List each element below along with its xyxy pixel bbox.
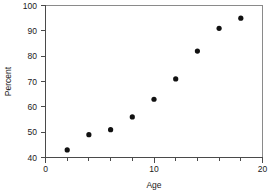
- data-point: [195, 49, 200, 54]
- data-point: [86, 132, 91, 137]
- y-tick-label-40: 40: [28, 153, 38, 163]
- y-tick-label-50: 50: [28, 127, 38, 137]
- x-tick-label-20: 20: [258, 164, 268, 174]
- y-tick-label-90: 90: [28, 26, 38, 36]
- chart-background: [0, 0, 271, 193]
- data-point: [130, 114, 135, 119]
- y-tick-label-80: 80: [28, 51, 38, 61]
- y-axis-title: Percent: [3, 66, 13, 96]
- data-point: [151, 97, 156, 102]
- y-tick-label-60: 60: [28, 102, 38, 112]
- x-tick-label-0: 0: [43, 164, 48, 174]
- data-point: [238, 16, 243, 21]
- x-axis-title: Age: [146, 180, 161, 190]
- y-tick-label-100: 100: [23, 1, 37, 11]
- chart-canvas: 40 50 60 70 80 90 100 0 10 20: [0, 0, 271, 193]
- data-point: [217, 26, 222, 31]
- y-tick-label-70: 70: [28, 77, 38, 87]
- data-point: [108, 127, 113, 132]
- data-point: [173, 76, 178, 81]
- scatter-chart: 40 50 60 70 80 90 100 0 10 20: [0, 0, 271, 193]
- x-tick-label-10: 10: [149, 164, 159, 174]
- data-point: [65, 147, 70, 152]
